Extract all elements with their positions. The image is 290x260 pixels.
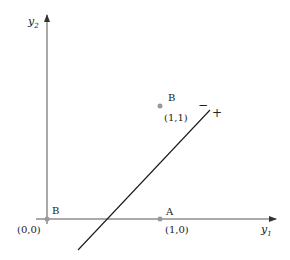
point-b-origin-coords: (0,0) — [17, 224, 41, 235]
point-b-origin — [45, 217, 50, 222]
point-b-top — [158, 104, 163, 109]
y1-axis-label: y1 — [260, 223, 272, 238]
point-a — [158, 217, 163, 222]
y2-axis-label: y2 — [27, 15, 39, 30]
diagram-canvas: y2 y1 − + B (0,0) A (1,0) B (1,1) — [0, 0, 290, 260]
point-b-top-coords: (1,1) — [164, 112, 188, 123]
point-b-origin-label: B — [52, 205, 59, 216]
minus-region-sign: − — [198, 98, 208, 112]
plus-region-sign: + — [212, 106, 222, 120]
point-a-coords: (1,0) — [165, 224, 189, 235]
point-b-top-label: B — [168, 92, 175, 103]
point-a-label: A — [165, 206, 174, 217]
decision-boundary-line — [78, 110, 210, 250]
